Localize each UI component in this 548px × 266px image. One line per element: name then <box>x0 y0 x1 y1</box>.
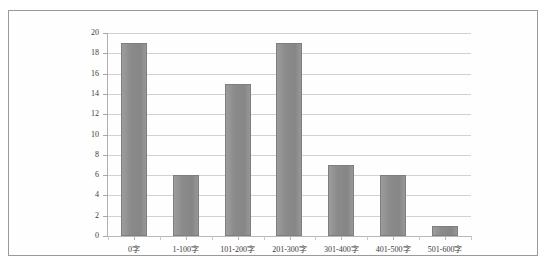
x-axis-tick-label: 401-500字 <box>376 245 411 255</box>
x-axis-tick-mark <box>134 236 135 240</box>
y-axis-tick-label: 8 <box>69 151 99 159</box>
y-axis-tick-labels: 02468101214161820 <box>67 33 99 236</box>
x-axis-tick-mark <box>290 236 291 240</box>
y-axis-tick-label: 6 <box>69 171 99 179</box>
x-axis-boundary-tick <box>419 236 420 240</box>
bars-layer <box>108 33 471 236</box>
x-axis-tick-label: 0字 <box>128 245 140 255</box>
x-axis-boundary-tick <box>108 236 109 240</box>
y-axis-tick-label: 0 <box>69 232 99 240</box>
bar[interactable] <box>380 175 406 236</box>
bar-slot <box>315 33 367 236</box>
y-axis-tick-label: 2 <box>69 212 99 220</box>
y-axis-tick-label: 14 <box>69 90 99 98</box>
y-axis-tick-label: 12 <box>69 110 99 118</box>
y-axis-tick-mark <box>103 155 108 156</box>
y-axis-tick-mark <box>103 33 108 34</box>
x-axis-tick-label: 101-200字 <box>220 245 255 255</box>
bar-slot <box>160 33 212 236</box>
y-axis-tick-label: 20 <box>69 29 99 37</box>
y-axis-tick-mark <box>103 216 108 217</box>
x-axis-tick-label: 201-300字 <box>272 245 307 255</box>
y-axis-tick-label: 16 <box>69 70 99 78</box>
x-axis-ticks <box>108 236 471 240</box>
chart-figure-frame: 02468101214161820 0字1-100字101-200字201-30… <box>8 10 538 256</box>
x-axis-boundary-tick <box>471 236 472 240</box>
chart-screenshot: 02468101214161820 0字1-100字101-200字201-30… <box>0 0 548 266</box>
x-axis-boundary-tick <box>160 236 161 240</box>
bar[interactable] <box>276 43 302 236</box>
bar-slot <box>108 33 160 236</box>
y-axis-tick-mark <box>103 135 108 136</box>
y-axis-tick-mark <box>103 94 108 95</box>
bar-slot <box>367 33 419 236</box>
y-axis-tick-mark <box>103 74 108 75</box>
bar[interactable] <box>328 165 354 236</box>
bar[interactable] <box>225 84 251 236</box>
x-axis-tick-mark <box>341 236 342 240</box>
x-axis-tick-label: 501-600字 <box>428 245 463 255</box>
bar-slot <box>264 33 316 236</box>
x-axis-tick-mark <box>238 236 239 240</box>
bar-slot <box>212 33 264 236</box>
y-axis-tick-mark <box>103 175 108 176</box>
x-axis-tick-labels: 0字1-100字101-200字201-300字301-400字401-500字… <box>108 245 471 259</box>
y-axis-tick-mark <box>103 114 108 115</box>
bar[interactable] <box>432 226 458 236</box>
x-axis-tick-label: 301-400字 <box>324 245 359 255</box>
y-axis-tick-label: 10 <box>69 131 99 139</box>
x-axis-boundary-tick <box>367 236 368 240</box>
x-axis-boundary-tick <box>212 236 213 240</box>
bar[interactable] <box>121 43 147 236</box>
x-axis-boundary-tick <box>264 236 265 240</box>
bar[interactable] <box>173 175 199 236</box>
y-axis-tick-mark <box>103 236 108 237</box>
y-axis-tick-label: 18 <box>69 49 99 57</box>
x-axis-tick-mark <box>445 236 446 240</box>
y-axis-tick-mark <box>103 195 108 196</box>
y-axis-tick-mark <box>103 53 108 54</box>
bar-slot <box>419 33 471 236</box>
x-axis-tick-label: 1-100字 <box>172 245 199 255</box>
x-axis-tick-mark <box>393 236 394 240</box>
x-axis-boundary-tick <box>315 236 316 240</box>
y-axis-tick-label: 4 <box>69 191 99 199</box>
x-axis-tick-mark <box>186 236 187 240</box>
